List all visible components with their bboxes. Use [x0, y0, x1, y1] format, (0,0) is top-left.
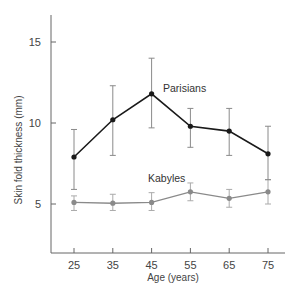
y-axis-label: Skin fold thickness (mm) [13, 96, 24, 205]
x-tick-label: 55 [184, 259, 196, 271]
data-point [188, 189, 193, 194]
data-point [265, 151, 270, 156]
x-tick-label: 75 [262, 259, 274, 271]
x-tick-label: 25 [68, 259, 80, 271]
series-kabyles [71, 180, 271, 211]
axes: 51015253545556575 [29, 15, 285, 271]
chart: 51015253545556575 Parisians Kabyles Age … [0, 0, 308, 297]
data-point [149, 91, 154, 96]
data-point [265, 189, 270, 194]
data-point [110, 201, 115, 206]
x-tick-label: 65 [223, 259, 235, 271]
data-point [71, 154, 76, 159]
y-tick-label: 15 [29, 36, 41, 48]
y-tick-label: 10 [29, 117, 41, 129]
label-parisians: Parisians [163, 82, 206, 94]
x-tick-label: 35 [107, 259, 119, 271]
x-tick-label: 45 [145, 259, 157, 271]
x-axis-label: Age (years) [147, 272, 199, 283]
data-point [227, 129, 232, 134]
series-line [74, 192, 268, 203]
data-point [227, 196, 232, 201]
data-point [149, 200, 154, 205]
y-tick-label: 5 [35, 198, 41, 210]
label-kabyles: Kabyles [148, 172, 185, 184]
series-parisians [71, 58, 271, 189]
data-point [71, 200, 76, 205]
series-line [74, 94, 268, 157]
data-point [188, 124, 193, 129]
data-point [110, 117, 115, 122]
